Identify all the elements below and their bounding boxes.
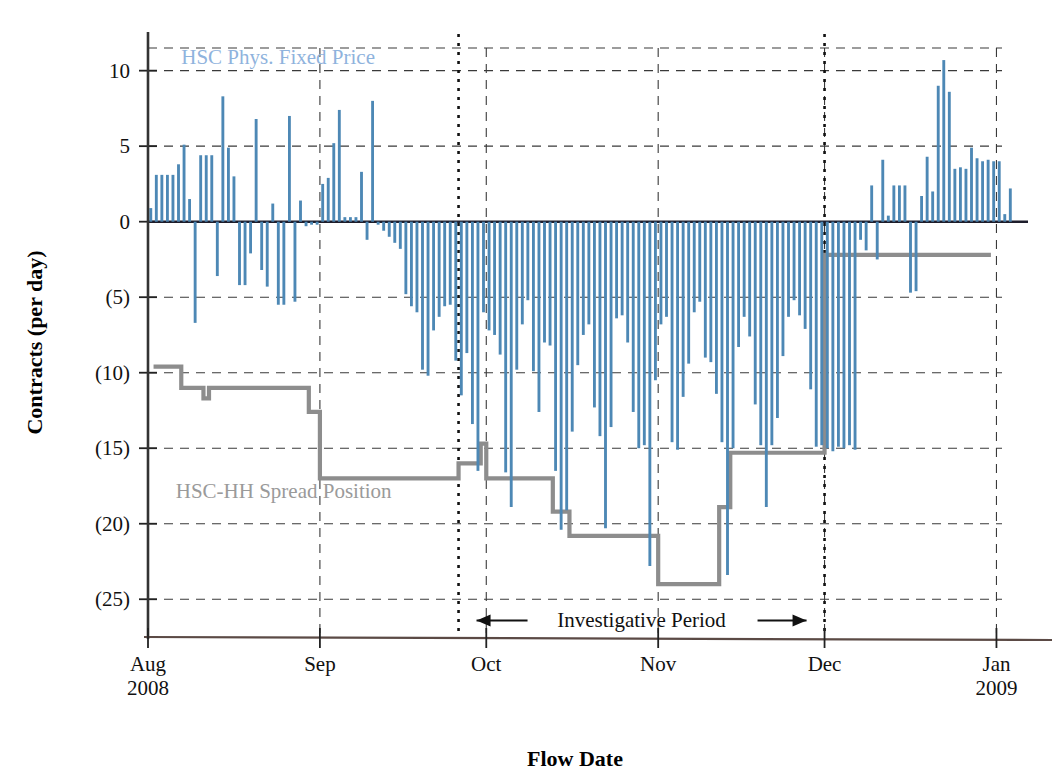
y-axis-tick-label: (25) xyxy=(95,587,130,611)
y-axis-tick-label: (5) xyxy=(106,285,131,309)
x-axis-tick-label: Oct xyxy=(471,652,501,676)
investigative-period-label: Investigative Period xyxy=(557,608,726,632)
y-axis-tick-label: 10 xyxy=(109,59,130,83)
y-axis-tick-label: (15) xyxy=(95,436,130,460)
x-axis-tick-label: Sep xyxy=(304,652,336,676)
legend-label-fixed-price: HSC Phys. Fixed Price xyxy=(181,45,375,69)
x-axis-tick-label: Nov xyxy=(640,652,677,676)
x-axis-spine xyxy=(144,637,1052,640)
y-axis-tick-label: (10) xyxy=(95,361,130,385)
arrow-left-head-icon xyxy=(477,614,491,626)
x-axis-tick-label: Aug xyxy=(130,652,167,676)
arrow-right-head-icon xyxy=(793,614,807,626)
x-axis-tick-year-label: 2008 xyxy=(127,676,169,700)
y-axis-tick-label: 0 xyxy=(120,210,131,234)
x-axis-tick-year-label: 2009 xyxy=(975,676,1017,700)
chart-svg: 1050(5)(10)(15)(20)(25)Aug2008SepOctNovD… xyxy=(0,0,1063,776)
y-axis-title: Contracts (per day) xyxy=(22,250,47,434)
y-axis-tick-label: (20) xyxy=(95,512,130,536)
y-axis-tick-label: 5 xyxy=(120,134,131,158)
x-axis-tick-label: Jan xyxy=(982,652,1010,676)
chart-figure: 1050(5)(10)(15)(20)(25)Aug2008SepOctNovD… xyxy=(0,0,1063,776)
x-axis-title: Flow Date xyxy=(527,746,623,771)
legend-label-spread-position: HSC-HH Spread Position xyxy=(176,479,392,503)
x-axis-tick-label: Dec xyxy=(808,652,842,676)
